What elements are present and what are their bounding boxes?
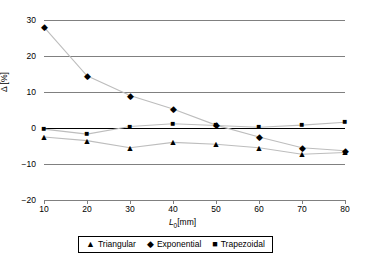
legend-item-triangular[interactable]: ▲Triangular	[86, 239, 136, 250]
y-tick-label: 20	[10, 52, 36, 61]
x-tick-label: 20	[72, 205, 102, 214]
x-axis-title: L0[mm]	[0, 217, 365, 229]
x-tick-label: 10	[29, 205, 59, 214]
series-lines	[44, 20, 345, 200]
y-tick-label: 10	[10, 88, 36, 97]
legend-item-label: Trapezoidal	[221, 239, 265, 250]
x-tick-label: 80	[330, 205, 360, 214]
x-tick-label: 30	[115, 205, 145, 214]
x-tick-label: 40	[158, 205, 188, 214]
legend-item-label: Exponential	[157, 239, 201, 250]
legend-item-trapezoidal[interactable]: ■Trapezoidal	[212, 239, 265, 250]
legend-marker-icon: ▲	[86, 240, 95, 249]
y-axis-title-text: Δ [%]	[0, 72, 9, 92]
chart-legend: ▲Triangular◆Exponential■Trapezoidal	[78, 236, 273, 253]
y-tick-label: 0	[10, 124, 36, 133]
x-tick-label: 60	[244, 205, 274, 214]
x-tick-label: 70	[287, 205, 317, 214]
y-tick-label: −20	[10, 196, 36, 205]
y-tick-label: −10	[10, 160, 36, 169]
x-axis-line	[44, 200, 345, 201]
y-tick-label: 30	[10, 16, 36, 25]
legend-marker-icon: ■	[212, 240, 217, 249]
legend-item-label: Triangular	[98, 239, 136, 250]
x-axis-unit: [mm]	[177, 217, 196, 227]
y-axis-title: Δ [%]	[0, 72, 9, 92]
x-tick-label: 50	[201, 205, 231, 214]
legend-marker-icon: ◆	[147, 240, 154, 249]
legend-item-exponential[interactable]: ◆Exponential	[147, 239, 201, 250]
chart-container: Δ [%] 3020100−10−20 ▲▲▲▲▲▲▲▲◆◆◆◆◆◆◆◆■■■■…	[0, 0, 365, 264]
